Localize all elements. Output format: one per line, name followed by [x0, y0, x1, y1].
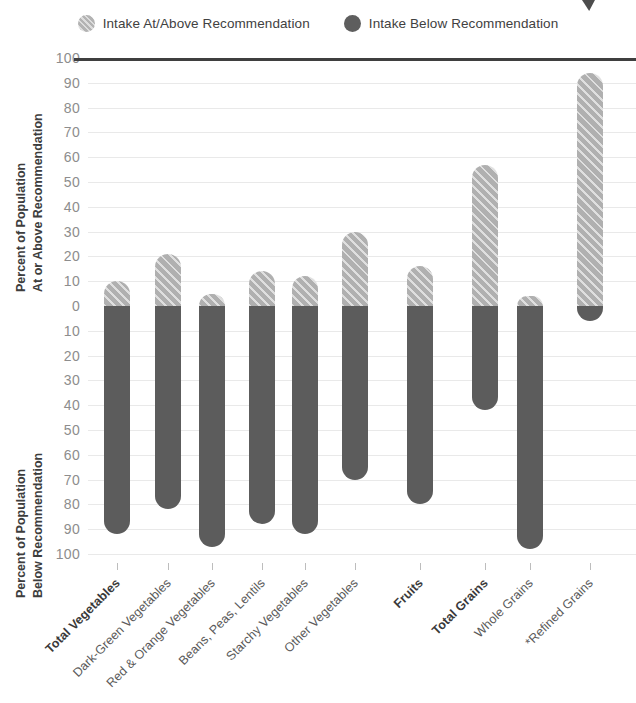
- bar-at-above-recommendation: [342, 232, 368, 306]
- bar-below-recommendation: [199, 306, 225, 547]
- bar-below-recommendation: [104, 306, 130, 534]
- bar-below-recommendation: [342, 306, 368, 480]
- bar-below-recommendation: [517, 306, 543, 549]
- legend-swatch-solid-circle-icon: [344, 15, 361, 32]
- gridline: [88, 132, 636, 133]
- y-tick-label: 30: [50, 224, 80, 240]
- y-tick-label: 10: [50, 273, 80, 289]
- y-axis-title-lower-line1: Percent of Population: [14, 453, 30, 598]
- gridline: [88, 182, 636, 183]
- bar-below-recommendation: [249, 306, 275, 524]
- y-tick-label: 40: [50, 199, 80, 215]
- gridline: [88, 83, 636, 84]
- bar-at-above-recommendation: [199, 294, 225, 306]
- bar-at-above-recommendation: [104, 281, 130, 306]
- y-tick-label: 0: [50, 298, 80, 314]
- legend-label-below: Intake Below Recommendation: [369, 16, 559, 31]
- gridline: [88, 157, 636, 158]
- y-axis-title-upper: Percent of Population At or Above Recomm…: [14, 113, 46, 292]
- y-tick-label: 10: [50, 323, 80, 339]
- bar-below-recommendation: [472, 306, 498, 410]
- gridline: [88, 554, 636, 555]
- legend-item-below: Intake Below Recommendation: [344, 15, 559, 32]
- y-tick-label: 50: [50, 174, 80, 190]
- zero-baseline: [74, 58, 636, 61]
- y-tick-label: 70: [50, 472, 80, 488]
- y-axis-title-lower: Percent of Population Below Recommendati…: [14, 453, 46, 598]
- y-tick-label: 20: [50, 348, 80, 364]
- y-tick-label: 30: [50, 372, 80, 388]
- gridline: [88, 529, 636, 530]
- chart-legend: Intake At/Above Recommendation Intake Be…: [0, 6, 636, 40]
- y-tick-label: 40: [50, 397, 80, 413]
- bar-at-above-recommendation: [472, 165, 498, 306]
- legend-swatch-hatched-circle-icon: [78, 15, 95, 32]
- y-tick-label: 90: [50, 521, 80, 537]
- bar-below-recommendation: [155, 306, 181, 509]
- bar-below-recommendation: [577, 306, 603, 321]
- y-axis-title-upper-line1: Percent of Population: [14, 113, 30, 292]
- bar-at-above-recommendation: [292, 276, 318, 306]
- gridline: [88, 232, 636, 233]
- y-tick-label: 50: [50, 422, 80, 438]
- y-tick-label: 100: [50, 546, 80, 562]
- chart-plot-area: [88, 58, 636, 614]
- gridline: [88, 108, 636, 109]
- y-tick-label: 70: [50, 124, 80, 140]
- bar-at-above-recommendation: [407, 266, 433, 306]
- y-tick-label: 80: [50, 496, 80, 512]
- bar-at-above-recommendation: [577, 73, 603, 306]
- y-axis-ticks: 1009080706050403020100102030405060708090…: [44, 58, 80, 614]
- y-tick-label: 60: [50, 149, 80, 165]
- gridline: [88, 207, 636, 208]
- y-tick-label: 90: [50, 75, 80, 91]
- bar-at-above-recommendation: [155, 254, 181, 306]
- bar-below-recommendation: [407, 306, 433, 504]
- legend-item-at-above: Intake At/Above Recommendation: [78, 15, 310, 32]
- y-tick-label: 60: [50, 447, 80, 463]
- y-tick-label: 20: [50, 248, 80, 264]
- bar-at-above-recommendation: [517, 296, 543, 306]
- y-tick-label: 80: [50, 100, 80, 116]
- bar-below-recommendation: [292, 306, 318, 534]
- legend-label-at-above: Intake At/Above Recommendation: [103, 16, 310, 31]
- bar-at-above-recommendation: [249, 271, 275, 306]
